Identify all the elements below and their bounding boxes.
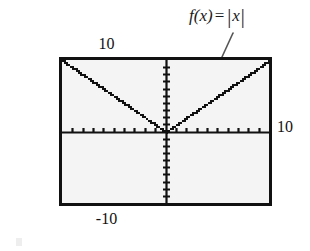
function-variable: x xyxy=(199,6,207,25)
calculator-screen-frame xyxy=(59,57,272,206)
equals-sign: = xyxy=(213,6,227,25)
axis-label-bottom: -10 xyxy=(0,211,213,227)
axis-label-top: 10 xyxy=(0,36,213,52)
axis-label-right: 10 xyxy=(277,119,293,135)
graphing-calculator-figure: f(x)=|x| 10 -10 -10 10 xyxy=(0,0,310,251)
function-annotation-label: f(x)=|x| xyxy=(189,6,246,26)
close-paren: ) xyxy=(207,6,213,25)
abs-bar-right: | xyxy=(240,5,246,27)
plot-canvas xyxy=(62,60,269,203)
abs-argument: x xyxy=(232,6,240,25)
scan-artifact-mark xyxy=(16,238,22,246)
